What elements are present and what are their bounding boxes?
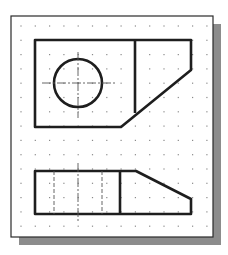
grid-dot xyxy=(135,140,136,141)
grid-dot xyxy=(121,226,122,227)
grid-dot xyxy=(206,226,207,227)
grid-dot xyxy=(92,25,93,26)
grid-dot xyxy=(206,111,207,112)
grid-dot xyxy=(20,54,21,55)
grid-dot xyxy=(63,97,64,98)
grid-dot xyxy=(20,211,21,212)
grid-dot xyxy=(149,211,150,212)
grid-dot xyxy=(121,25,122,26)
grid-dot xyxy=(49,154,50,155)
grid-dot xyxy=(135,25,136,26)
grid-dot xyxy=(78,140,79,141)
grid-dot xyxy=(49,111,50,112)
grid-dot xyxy=(178,168,179,169)
grid-dot xyxy=(192,97,193,98)
grid-dot xyxy=(192,154,193,155)
grid-dot xyxy=(178,111,179,112)
grid-dot xyxy=(92,54,93,55)
grid-dot xyxy=(178,226,179,227)
grid-dot xyxy=(35,140,36,141)
grid-dot xyxy=(35,168,36,169)
grid-dot xyxy=(20,168,21,169)
grid-dot xyxy=(206,140,207,141)
grid-dot xyxy=(135,211,136,212)
grid-dot xyxy=(49,211,50,212)
grid-dot xyxy=(163,97,164,98)
grid-dot xyxy=(63,197,64,198)
grid-dot xyxy=(178,97,179,98)
grid-dot xyxy=(149,126,150,127)
grid-dot xyxy=(206,197,207,198)
grid-dot xyxy=(106,168,107,169)
grid-dot xyxy=(149,140,150,141)
grid-dot xyxy=(20,40,21,41)
grid-dot xyxy=(121,97,122,98)
grid-dot xyxy=(178,25,179,26)
grid-dot xyxy=(149,83,150,84)
grid-dot xyxy=(163,126,164,127)
grid-dot xyxy=(92,97,93,98)
grid-dot xyxy=(135,154,136,155)
grid-dot xyxy=(49,25,50,26)
grid-dot xyxy=(106,111,107,112)
grid-dot xyxy=(192,83,193,84)
grid-dot xyxy=(163,197,164,198)
grid-dot xyxy=(92,211,93,212)
grid-dot xyxy=(149,226,150,227)
grid-dot xyxy=(63,68,64,69)
grid-dot xyxy=(63,154,64,155)
grid-dot xyxy=(206,68,207,69)
grid-dot xyxy=(192,111,193,112)
grid-dot xyxy=(206,168,207,169)
grid-dot xyxy=(121,168,122,169)
grid-dot xyxy=(178,197,179,198)
grid-dot xyxy=(163,83,164,84)
grid-dot xyxy=(121,83,122,84)
grid-dot xyxy=(106,54,107,55)
grid-dot xyxy=(149,197,150,198)
grid-dot xyxy=(149,25,150,26)
grid-dot xyxy=(192,25,193,26)
grid-dot xyxy=(106,25,107,26)
grid-dot xyxy=(192,126,193,127)
grid-dot xyxy=(206,83,207,84)
grid-dot xyxy=(92,111,93,112)
grid-dot xyxy=(121,54,122,55)
grid-dot xyxy=(135,126,136,127)
grid-dot xyxy=(35,154,36,155)
grid-dot xyxy=(20,154,21,155)
drawing-canvas xyxy=(0,0,228,255)
grid-dot xyxy=(78,154,79,155)
grid-dot xyxy=(178,140,179,141)
grid-dot xyxy=(206,97,207,98)
grid-dot xyxy=(106,154,107,155)
grid-dot xyxy=(192,183,193,184)
grid-dot xyxy=(121,68,122,69)
grid-dot xyxy=(106,140,107,141)
grid-dot xyxy=(49,183,50,184)
grid-dot xyxy=(20,25,21,26)
grid-dot xyxy=(135,168,136,169)
grid-dot xyxy=(20,83,21,84)
grid-dot xyxy=(49,226,50,227)
grid-dot xyxy=(135,226,136,227)
grid-dot xyxy=(135,197,136,198)
grid-dot xyxy=(20,97,21,98)
grid-dot xyxy=(163,168,164,169)
grid-dot xyxy=(163,140,164,141)
grid-dot xyxy=(163,68,164,69)
grid-dot xyxy=(49,168,50,169)
grid-dot xyxy=(106,197,107,198)
grid-dot xyxy=(178,211,179,212)
grid-dot xyxy=(49,140,50,141)
grid-dot xyxy=(20,126,21,127)
grid-dot xyxy=(92,183,93,184)
grid-dot xyxy=(178,68,179,69)
grid-dot xyxy=(163,111,164,112)
grid-dot xyxy=(192,168,193,169)
grid-dot xyxy=(178,154,179,155)
grid-dot xyxy=(149,54,150,55)
grid-dot xyxy=(178,54,179,55)
grid-dot xyxy=(63,140,64,141)
grid-dot xyxy=(63,168,64,169)
